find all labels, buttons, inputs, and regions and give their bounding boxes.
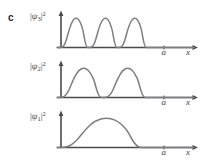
figure-container: c |ψ3|2 a x xyxy=(0,0,206,163)
x-tick-label-a-psi1: a xyxy=(162,147,167,157)
x-axis-label-psi1: x xyxy=(185,147,190,157)
plot-psi1: |ψ1|2 a x xyxy=(0,104,206,160)
y-axis-label-psi1: |ψ1|2 xyxy=(30,110,46,123)
curve-psi2 xyxy=(57,68,194,97)
curve-psi3 xyxy=(57,18,194,47)
panel-psi3: |ψ3|2 a x xyxy=(0,4,206,56)
plot-psi3: |ψ3|2 a x xyxy=(0,4,206,56)
curve-psi1 xyxy=(57,118,194,147)
y-axis-label-psi2: |ψ2|2 xyxy=(30,60,46,73)
y-axis-arrow-psi2 xyxy=(59,61,64,67)
plot-psi2: |ψ2|2 a x xyxy=(0,54,206,106)
y-axis-label-psi3: |ψ3|2 xyxy=(30,10,46,23)
y-axis-arrow-psi3 xyxy=(59,11,64,17)
y-axis-arrow-psi1 xyxy=(59,111,64,117)
panel-psi1: |ψ1|2 a x xyxy=(0,104,206,160)
panel-psi2: |ψ2|2 a x xyxy=(0,54,206,106)
